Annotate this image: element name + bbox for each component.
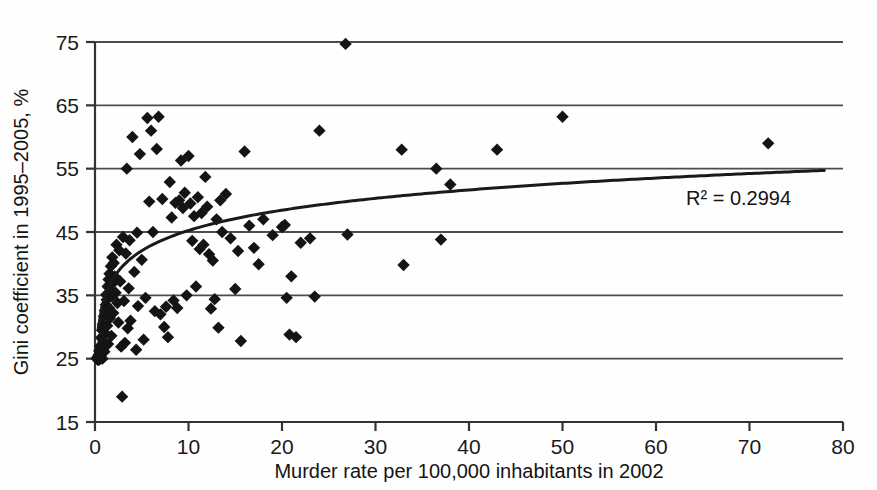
y-tick-label-35: 35 <box>56 284 79 307</box>
x-tick-label-0: 0 <box>89 435 101 458</box>
y-tick-label-65: 65 <box>56 94 79 117</box>
scatter-chart: 15253545556575 01020304050607080 R² = 0.… <box>0 0 877 490</box>
x-tick-label-40: 40 <box>457 435 480 458</box>
x-tick-label-60: 60 <box>644 435 667 458</box>
x-tick-label-20: 20 <box>270 435 293 458</box>
x-tick-label-30: 30 <box>364 435 387 458</box>
y-tick-label-45: 45 <box>56 221 79 244</box>
x-tick-label-10: 10 <box>177 435 200 458</box>
chart-background <box>0 0 877 490</box>
r-squared-annotation: R² = 0.2994 <box>686 187 791 209</box>
x-tick-label-50: 50 <box>551 435 574 458</box>
y-tick-label-15: 15 <box>56 411 79 434</box>
y-tick-label-25: 25 <box>56 347 79 370</box>
y-tick-label-75: 75 <box>56 31 79 54</box>
x-tick-label-80: 80 <box>831 435 854 458</box>
x-tick-label-70: 70 <box>738 435 761 458</box>
chart-page: 15253545556575 01020304050607080 R² = 0.… <box>0 0 877 490</box>
y-axis-title: Gini coefficient in 1995–2005, % <box>10 89 32 376</box>
x-axis-title: Murder rate per 100,000 inhabitants in 2… <box>274 460 663 482</box>
y-tick-label-55: 55 <box>56 157 79 180</box>
